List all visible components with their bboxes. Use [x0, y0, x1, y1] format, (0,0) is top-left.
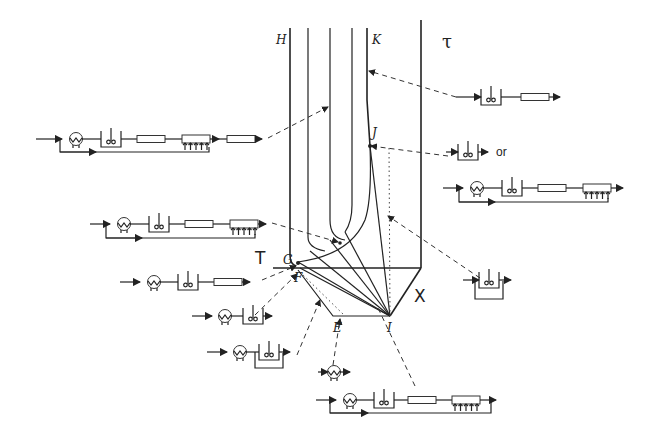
boundary-h [290, 28, 296, 266]
label-i: I [386, 321, 392, 335]
network-recycle-right [443, 177, 623, 202]
label-j: J [369, 126, 378, 140]
fan-line [310, 251, 390, 316]
trajectory-1 [308, 28, 325, 251]
trajectory-3 [345, 28, 352, 232]
label-h: H [275, 33, 287, 47]
label-x: X [414, 286, 426, 306]
network-cstr-bypass [463, 269, 511, 299]
network-cstr-or [446, 141, 488, 160]
label-tau: τ [442, 31, 452, 52]
label-t: T [254, 248, 266, 268]
network-hx [318, 366, 350, 382]
network-hx-cstr [192, 305, 272, 325]
fan-line [370, 146, 390, 316]
network-cstr-pfr [456, 86, 560, 105]
dotted-line [300, 272, 345, 316]
label-e: E [332, 321, 342, 335]
network-recycle-mid [90, 213, 266, 238]
network-recycle-long [36, 128, 262, 152]
network-hx-cstr-bypass [207, 341, 290, 368]
attainable-region-diagram: H K τ J G T F E I X [0, 0, 653, 439]
network-hx-cstr-pfr [120, 271, 250, 291]
fan-line [330, 240, 390, 316]
label-g: G [283, 253, 293, 267]
dotted-line [389, 146, 390, 316]
trajectory-2 [330, 28, 345, 240]
or-label: or [496, 145, 507, 159]
label-k: K [371, 33, 382, 47]
network-recycle-bottom [316, 389, 496, 413]
label-f: F [293, 271, 303, 285]
boundary-k-j [367, 28, 370, 146]
